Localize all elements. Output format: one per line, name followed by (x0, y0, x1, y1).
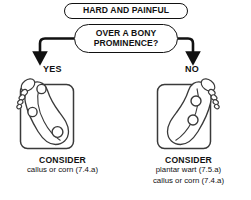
node-hard-and-painful: HARD AND PAINFUL (64, 3, 188, 19)
lesion-marker-3 (52, 127, 63, 138)
caption-no-heading: CONSIDER (126, 155, 251, 165)
foot-illustration-yes (16, 76, 78, 152)
foot-illustration-no (152, 76, 220, 152)
node-hard-and-painful-label: HARD AND PAINFUL (83, 6, 169, 16)
branch-label-yes: YES (43, 64, 62, 74)
lesion-marker-2 (188, 115, 198, 125)
lesion-marker-1 (191, 96, 201, 106)
node-decision-line-2: PROMINENCE? (94, 39, 159, 49)
caption-yes-detail-1: callus or corn (7.4.a) (0, 165, 125, 175)
caption-no: CONSIDER plantar wart (7.5.a) callus or … (126, 155, 251, 186)
foot-plantar-view-no-graphic (152, 76, 220, 152)
caption-no-detail-1: plantar wart (7.5.a) (126, 165, 251, 175)
flowchart-canvas: HARD AND PAINFUL OVER A BONY PROMINENCE?… (0, 0, 251, 200)
caption-yes-heading: CONSIDER (0, 155, 125, 165)
caption-no-detail-2: callus or corn (7.4.a) (126, 176, 251, 186)
lesion-marker-2 (28, 107, 37, 116)
foot-plantar-view-yes-graphic (16, 76, 78, 152)
branch-label-no: NO (185, 64, 199, 74)
connector-yes (40, 39, 74, 59)
lesion-marker-1 (37, 84, 46, 93)
connector-no (178, 39, 193, 59)
caption-yes: CONSIDER callus or corn (7.4.a) (0, 155, 125, 176)
node-over-a-bony-prominence: OVER A BONY PROMINENCE? (74, 24, 178, 53)
